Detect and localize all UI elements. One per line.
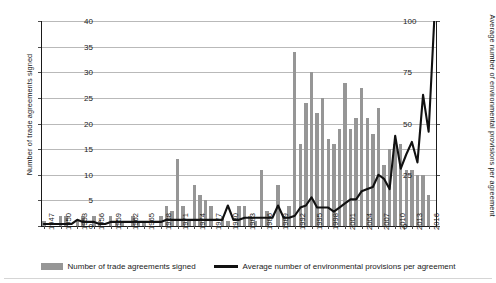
x-tick	[395, 226, 396, 229]
x-tick	[245, 226, 246, 229]
y-tick-right	[437, 21, 440, 22]
y-tick-left	[38, 175, 41, 176]
y-axis-left-tick-label: 0	[89, 222, 93, 231]
legend-bar-label: Number of trade agreements signed	[68, 262, 196, 271]
x-axis-tick-label: 1977	[214, 213, 223, 230]
y-tick-left	[38, 72, 41, 73]
y-axis-right-tick-label: 100	[403, 17, 416, 26]
y-tick-left	[38, 149, 41, 150]
x-axis-tick-label: 1971	[181, 213, 190, 230]
y-tick-left	[38, 226, 41, 227]
x-axis-tick-label: 1962	[131, 213, 140, 230]
x-tick	[127, 226, 128, 229]
y-axis-left-tick-label: 5	[89, 196, 93, 205]
x-tick	[278, 226, 279, 229]
legend-line-swatch	[214, 265, 238, 268]
y-axis-left-title: Number of trade agreements signed	[25, 30, 34, 200]
y-axis-left-tick-label: 40	[84, 17, 93, 26]
legend-line-label: Average number of environmental provisio…	[243, 262, 456, 271]
x-axis-tick-label: 2013	[415, 213, 424, 230]
x-axis-tick-label: 1983	[248, 213, 257, 230]
x-axis-tick-label: 1959	[114, 213, 123, 230]
legend-bar-swatch	[41, 263, 63, 270]
x-axis-tick-label: 2007	[382, 213, 391, 230]
y-tick-right	[437, 72, 440, 73]
y-axis-left-tick-label: 15	[84, 145, 93, 154]
x-axis-tick-label: 1998	[331, 213, 340, 230]
chart-legend: Number of trade agreements signed Averag…	[0, 262, 496, 271]
x-axis-tick-label: 1956	[97, 213, 106, 230]
x-tick	[261, 226, 262, 229]
line-path	[44, 21, 434, 224]
y-axis-right-title: Average number of environmental provisio…	[488, 15, 496, 215]
x-axis-tick-label: 2001	[348, 213, 357, 230]
y-axis-left-tick-label: 20	[84, 119, 93, 128]
x-tick	[178, 226, 179, 229]
y-axis-left-line	[41, 21, 42, 226]
x-axis-tick-label: 1980	[231, 213, 240, 230]
legend-item-line: Average number of environmental provisio…	[214, 262, 456, 271]
x-axis-tick-label: 1953	[80, 213, 89, 230]
x-tick	[328, 226, 329, 229]
x-tick	[378, 226, 379, 229]
x-axis-tick-label: 2016	[432, 213, 441, 230]
y-tick-left	[38, 124, 41, 125]
x-tick	[194, 226, 195, 229]
x-axis-tick-label: 1965	[147, 213, 156, 230]
plot-area	[41, 21, 437, 226]
line-series	[41, 21, 437, 226]
x-tick	[362, 226, 363, 229]
x-axis-tick-label: 2004	[365, 213, 374, 230]
x-axis-tick-label: 1974	[198, 213, 207, 230]
x-tick	[312, 226, 313, 229]
footer-divider	[4, 278, 492, 279]
x-axis-tick-label: 1986	[265, 213, 274, 230]
x-tick	[44, 226, 45, 229]
y-tick-left	[38, 21, 41, 22]
y-tick-right	[437, 124, 440, 125]
x-axis-tick-label: 1950	[64, 213, 73, 230]
x-axis-tick-label: 1995	[315, 213, 324, 230]
x-tick	[94, 226, 95, 229]
x-axis-tick-label: 2010	[398, 213, 407, 230]
x-tick	[61, 226, 62, 229]
x-tick	[228, 226, 229, 229]
x-tick	[295, 226, 296, 229]
y-axis-left-tick-label: 30	[84, 68, 93, 77]
y-axis-left-tick-label: 35	[84, 42, 93, 51]
y-axis-right-tick-label: 50	[403, 119, 412, 128]
y-axis-right-tick-label: 75	[403, 68, 412, 77]
legend-item-bars: Number of trade agreements signed	[41, 262, 196, 271]
x-tick	[345, 226, 346, 229]
y-tick-left	[38, 98, 41, 99]
x-tick	[412, 226, 413, 229]
chart-container: Number of trade agreements signed Averag…	[0, 0, 496, 283]
y-axis-left-tick-label: 25	[84, 93, 93, 102]
y-axis-left-tick-label: 10	[84, 170, 93, 179]
x-axis-tick-label: 1947	[47, 213, 56, 230]
y-axis-right-tick-label: 25	[403, 170, 412, 179]
x-tick	[161, 226, 162, 229]
x-tick	[429, 226, 430, 229]
y-tick-left	[38, 200, 41, 201]
x-tick	[211, 226, 212, 229]
x-axis-tick-label: 1992	[298, 213, 307, 230]
x-axis-tick-label: 1989	[281, 213, 290, 230]
x-tick	[111, 226, 112, 229]
x-tick	[144, 226, 145, 229]
y-tick-right	[437, 175, 440, 176]
x-tick	[77, 226, 78, 229]
y-tick-left	[38, 47, 41, 48]
x-axis-tick-label: 1968	[164, 213, 173, 230]
